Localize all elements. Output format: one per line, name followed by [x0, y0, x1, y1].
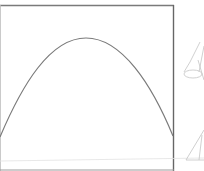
arch-diagram — [0, 0, 204, 171]
parabola-curve — [0, 38, 173, 137]
sketch-canvas — [0, 0, 204, 171]
triangle-sketch-icon — [186, 130, 204, 160]
rectangle-frame — [0, 5, 204, 171]
cone-sketch-icon — [184, 42, 204, 80]
